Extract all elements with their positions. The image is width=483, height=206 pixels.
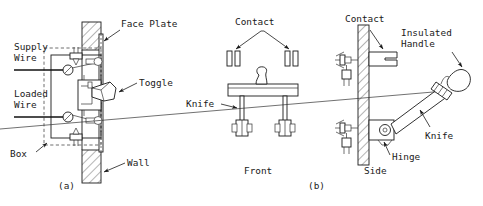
- knife-blade-right-front: [283, 96, 287, 122]
- knife-crossbar: [228, 84, 298, 96]
- label-knife-front: Knife: [186, 98, 215, 109]
- label-supply-wire-line2: Wire: [14, 52, 37, 63]
- caption-side: Side: [364, 165, 387, 176]
- label-loaded-wire-line2: Wire: [14, 99, 37, 110]
- figure-canvas: Face Plate Supply Wire Loaded Wire Toggl…: [0, 0, 483, 206]
- label-knife-side: Knife: [425, 130, 454, 141]
- wall-hatched-top: [82, 22, 101, 50]
- label-supply-wire-line1: Supply: [14, 41, 48, 52]
- label-insulated-handle-line2: Handle: [401, 38, 435, 49]
- label-contact-front: Contact: [235, 16, 275, 27]
- label-contact-side: Contact: [345, 13, 385, 24]
- side-wall-panel: [358, 25, 369, 165]
- diagram-svg: Face Plate Supply Wire Loaded Wire Toggl…: [0, 0, 483, 206]
- label-wall: Wall: [127, 157, 150, 168]
- wall-hatched-bottom: [82, 150, 101, 183]
- knife-blade-left-front: [240, 96, 244, 122]
- caption-panel-a: (a): [58, 180, 75, 191]
- label-toggle: Toggle: [139, 77, 173, 88]
- label-hinge: Hinge: [392, 151, 421, 162]
- caption-front: Front: [244, 165, 272, 176]
- label-loaded-wire-line1: Loaded: [14, 88, 48, 99]
- label-box: Box: [10, 148, 27, 159]
- label-face-plate: Face Plate: [121, 18, 178, 29]
- label-insulated-handle-line1: Insulated: [401, 27, 452, 38]
- caption-panel-b: (b): [308, 180, 325, 191]
